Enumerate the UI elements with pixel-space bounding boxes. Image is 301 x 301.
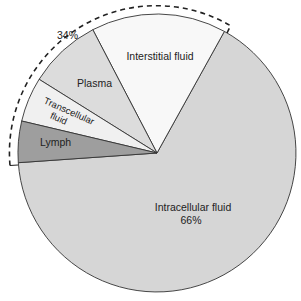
label-intracellular-pct: 66%: [180, 214, 201, 226]
pie-chart: 34% Interstitial fluid Plasma Transcellu…: [0, 0, 301, 301]
label-interstitial: Interstitial fluid: [126, 50, 193, 62]
label-plasma: Plasma: [77, 77, 112, 89]
label-intracellular: Intracellular fluid: [155, 201, 232, 213]
label-extracellular-pct: 34%: [57, 29, 78, 41]
label-lymph: Lymph: [40, 136, 71, 148]
extracellular-arc-tick: [10, 165, 18, 166]
